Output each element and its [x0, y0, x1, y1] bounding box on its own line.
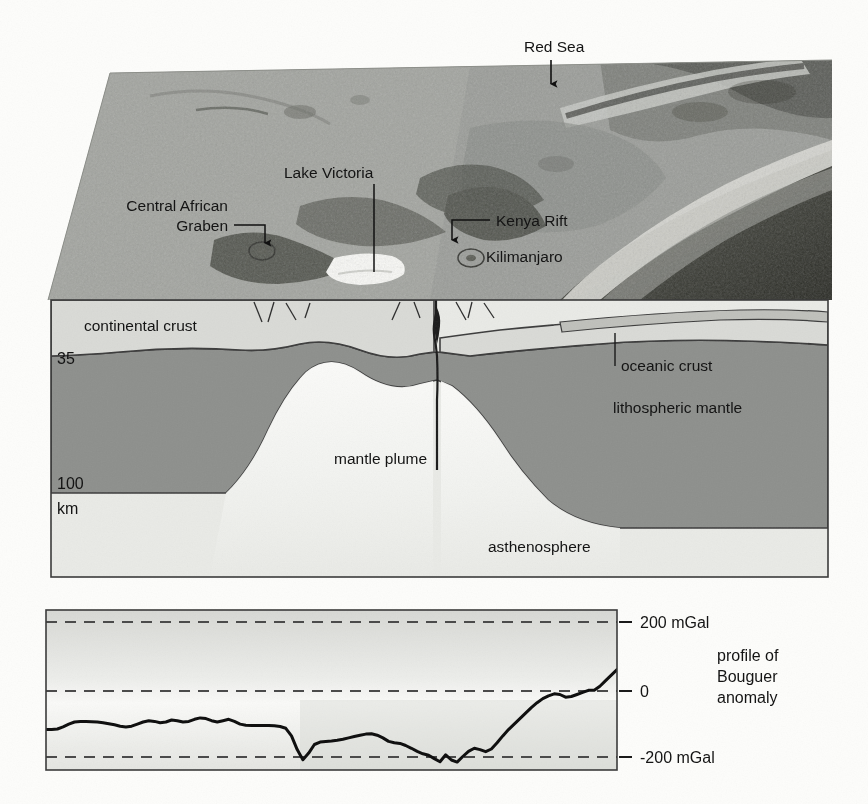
asthenosphere-label: asthenosphere	[488, 538, 591, 555]
lake-victoria-label: Lake Victoria	[284, 164, 374, 181]
ytick-label-200: 200 mGal	[640, 614, 709, 631]
kenya-rift-label: Kenya Rift	[496, 212, 568, 229]
ytick-label-minus-200: -200 mGal	[640, 749, 715, 766]
continental-crust-label: continental crust	[84, 317, 198, 334]
lithosphere-cross-section: 35 100 km continental crust oceanic crus…	[51, 300, 828, 577]
depth-100-label: 100	[57, 475, 84, 492]
central-african-graben-label-line2: Graben	[176, 217, 228, 234]
figure-root: Red Sea Lake Victoria Central African Gr…	[0, 0, 868, 804]
depth-35-label: 35	[57, 350, 75, 367]
caption-line-1: profile of	[717, 647, 779, 664]
oceanic-crust-label: oceanic crust	[621, 357, 713, 374]
red-sea-label: Red Sea	[524, 38, 585, 55]
kilimanjaro-label: Kilimanjaro	[486, 248, 563, 265]
caption-line-2: Bouguer	[717, 668, 778, 685]
lithospheric-mantle-label: lithospheric mantle	[613, 399, 742, 416]
label-kilimanjaro: Kilimanjaro	[486, 248, 563, 265]
depth-unit-label: km	[57, 500, 78, 517]
caption-line-3: anomaly	[717, 689, 777, 706]
mantle-plume-label: mantle plume	[334, 450, 427, 467]
satellite-relief-block	[48, 58, 832, 302]
dem-content	[48, 58, 832, 302]
central-african-graben-label-line1: Central African	[126, 197, 228, 214]
east-african-rift-figure: Red Sea Lake Victoria Central African Gr…	[0, 0, 868, 804]
ytick-label-0: 0	[640, 683, 649, 700]
chart-caption: profile of Bouguer anomaly	[717, 647, 779, 706]
